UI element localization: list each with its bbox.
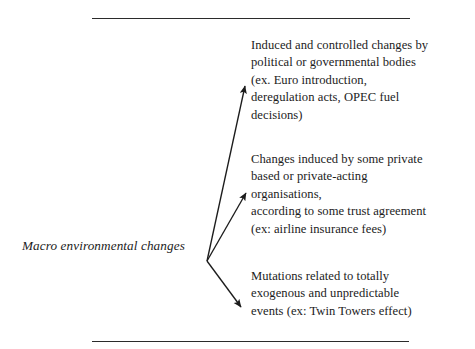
top-rule	[92, 18, 410, 19]
arrow-to-private	[207, 193, 246, 261]
bottom-rule	[92, 341, 409, 342]
branch-label-political: Induced and controlled changes by politi…	[251, 37, 475, 124]
branch-label-exogenous: Mutations related to totally exogenous a…	[251, 268, 475, 320]
macro-environmental-changes-diagram: Macro environmental changes Induced and …	[0, 0, 475, 349]
arrow-to-exogenous	[207, 261, 241, 307]
branch-label-private: Changes induced by some private based or…	[251, 151, 475, 238]
source-label-macro-environmental-changes: Macro environmental changes	[22, 238, 212, 254]
arrow-to-political	[207, 86, 245, 261]
